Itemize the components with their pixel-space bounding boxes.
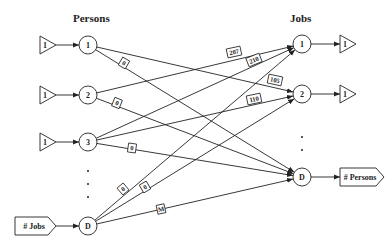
- person-node-3: 13: [40, 133, 97, 151]
- ellipsis-dot: [87, 170, 89, 172]
- svg-text:1: 1: [43, 138, 47, 147]
- edge-cost-label: 105: [267, 74, 283, 86]
- edges-layer: 10502070210110000M: [95, 46, 295, 224]
- person-node-1: 11: [40, 36, 97, 54]
- edge-cost-label: 0: [139, 181, 150, 193]
- svg-text:# Jobs: # Jobs: [23, 222, 45, 231]
- person-node-2: 12: [40, 86, 97, 104]
- edge-PD-J2: [96, 99, 295, 222]
- svg-text:2: 2: [300, 90, 304, 99]
- edge-P2-J1: [97, 46, 293, 93]
- ellipsis-dot: [87, 196, 89, 198]
- svg-text:1: 1: [300, 40, 304, 49]
- edge-cost-label: 0: [118, 57, 129, 69]
- job-node-D: D# Persons: [293, 168, 384, 186]
- edge-cost-label: 0: [112, 97, 123, 108]
- svg-text:1: 1: [86, 41, 90, 50]
- svg-text:D: D: [299, 173, 305, 182]
- person-node-D: # JobsD: [15, 217, 97, 235]
- edge-cost-label: 210: [246, 53, 262, 67]
- svg-text:# Persons: # Persons: [344, 173, 377, 182]
- job-node-2: 21: [293, 85, 356, 103]
- edge-P2-JD: [96, 98, 293, 174]
- edge-cost-label: 0: [127, 143, 136, 153]
- edge-PD-J1: [95, 50, 295, 220]
- svg-text:2: 2: [86, 91, 90, 100]
- svg-text:D: D: [85, 222, 91, 231]
- svg-text:3: 3: [86, 138, 90, 147]
- svg-text:1: 1: [43, 41, 47, 50]
- edge-cost-label: M: [156, 204, 166, 214]
- ellipsis-dot: [301, 149, 303, 151]
- assignment-network-diagram: 10502070210110000M 111213# JobsD1121D# P…: [0, 0, 392, 248]
- ellipsis-dot: [301, 136, 303, 138]
- edge-PD-JD: [97, 179, 293, 224]
- svg-text:1: 1: [43, 91, 47, 100]
- svg-text:1: 1: [343, 90, 347, 99]
- nodes-layer: 111213# JobsD1121D# Persons: [15, 35, 384, 235]
- svg-text:1: 1: [343, 40, 347, 49]
- ellipsis-dot: [87, 183, 89, 185]
- job-node-1: 11: [293, 35, 356, 53]
- edge-cost-label: 207: [226, 46, 242, 58]
